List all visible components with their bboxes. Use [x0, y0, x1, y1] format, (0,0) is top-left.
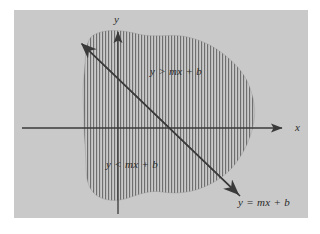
figure-container: y > mx + b y < mx + b y = mx + b x y: [0, 0, 320, 234]
region-label-above-line: y > mx + b: [150, 66, 202, 77]
boundary-line-label: y = mx + b: [238, 197, 290, 208]
region-label-below-line: y < mx + b: [106, 159, 158, 170]
y-axis-label: y: [114, 14, 119, 25]
x-axis-label: x: [295, 122, 300, 133]
